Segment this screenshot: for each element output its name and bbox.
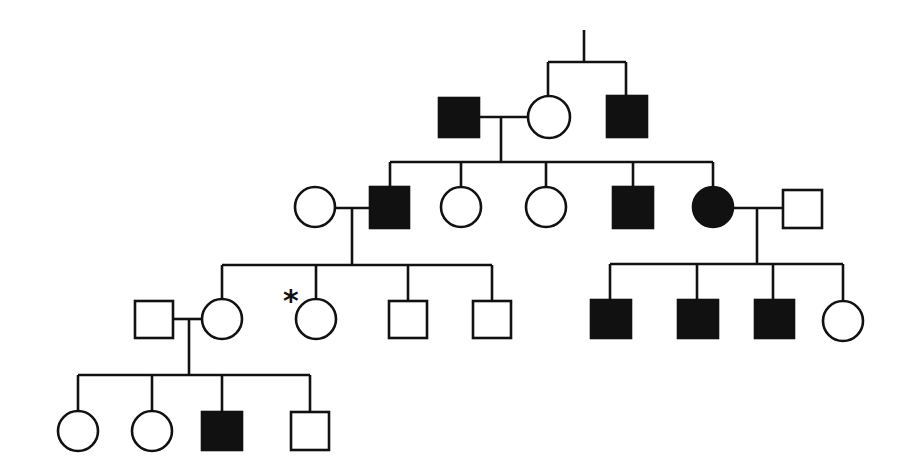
individual-III-1-unaffected-male	[135, 301, 173, 338]
asterisk-marker: *	[283, 286, 299, 316]
individual-II-4-unaffected-female	[526, 187, 566, 227]
individual-IV-1-unaffected-female	[58, 411, 98, 451]
individual-III-8-affected-male	[755, 300, 794, 338]
generation-3	[135, 299, 863, 341]
generation-4	[58, 411, 329, 451]
pedigree-chart	[0, 0, 911, 470]
individual-III-7-affected-male	[678, 300, 718, 338]
generation-1	[439, 96, 647, 138]
individual-IV-2-unaffected-female	[132, 411, 172, 451]
individual-III-4-unaffected-male	[389, 301, 427, 338]
individual-III-3-unaffected-female-marked	[296, 299, 336, 339]
individual-II-1-unaffected-female	[295, 187, 335, 227]
individual-II-6-affected-female	[693, 187, 733, 227]
individual-IV-4-unaffected-male	[291, 412, 329, 450]
individual-III-5-unaffected-male	[473, 301, 511, 338]
individual-II-5-affected-male	[613, 187, 653, 228]
individual-III-6-affected-male	[591, 300, 631, 338]
individual-II-2-affected-male	[370, 187, 409, 228]
individual-III-9-unaffected-female	[823, 301, 863, 341]
individual-II-3-unaffected-female	[441, 187, 481, 227]
individual-I-2-unaffected-female	[528, 96, 570, 138]
individual-II-7-unaffected-male	[783, 190, 822, 228]
individual-I-3-affected-male	[607, 96, 647, 137]
individual-III-2-unaffected-female	[202, 299, 242, 339]
individual-I-1-affected-male	[439, 98, 479, 137]
individual-IV-3-affected-male	[202, 412, 242, 450]
